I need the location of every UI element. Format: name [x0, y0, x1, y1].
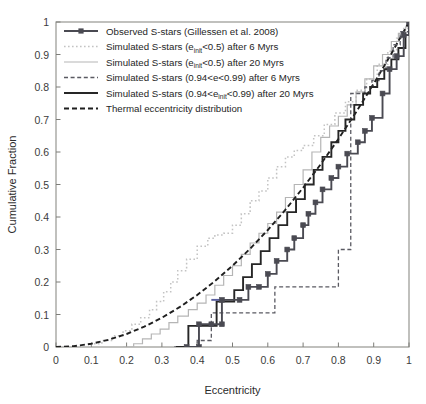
series-marker — [292, 236, 297, 241]
series-marker — [407, 20, 412, 25]
series-marker — [209, 322, 214, 327]
series-marker — [306, 211, 311, 216]
series-marker — [274, 258, 279, 263]
series-marker — [237, 297, 242, 302]
y-tick-label: 0.2 — [34, 276, 49, 288]
x-axis-title: Eccentricity — [204, 384, 261, 396]
x-tick-label: 0.1 — [84, 354, 99, 366]
plot-frame — [56, 22, 409, 347]
x-tick-label: 0 — [53, 354, 59, 366]
series-marker — [329, 176, 334, 181]
y-tick-label: 0.4 — [34, 211, 49, 223]
x-tick-label: 0.8 — [331, 354, 346, 366]
y-axis-title: Cumulative Fraction — [6, 136, 18, 234]
series-marker — [220, 297, 225, 302]
chart-container: 00.10.20.30.40.50.60.70.80.9100.10.20.30… — [0, 0, 426, 404]
x-tick-label: 0.3 — [155, 354, 170, 366]
series-marker — [345, 151, 350, 156]
series-marker — [265, 271, 270, 276]
series-marker — [313, 200, 318, 205]
x-tick-label: 0.9 — [366, 354, 381, 366]
series-marker — [355, 140, 360, 145]
series-marker — [370, 115, 375, 120]
x-tick-label: 1 — [406, 354, 412, 366]
legend-entry-label: Simulated S-stars (0.94<einit<0.99) afte… — [106, 88, 314, 100]
legend-marker-sample — [78, 28, 83, 33]
series-marker — [197, 345, 202, 350]
series-marker — [184, 345, 189, 350]
x-tick-label: 0.7 — [296, 354, 311, 366]
series-marker — [320, 187, 325, 192]
series-marker — [257, 284, 262, 289]
series-marker — [394, 54, 399, 59]
legend-entry-label: Simulated S-stars (einit<0.5) after 6 My… — [106, 41, 279, 53]
legend-entry-label: Simulated S-stars (0.94<e<0.99) after 6 … — [106, 72, 300, 83]
series-marker — [301, 223, 306, 228]
legend-entry-label: Observed S-stars (Gillessen et al. 2008) — [106, 26, 278, 37]
y-tick-label: 0.6 — [34, 146, 49, 158]
series-marker — [387, 67, 392, 72]
y-tick-label: 0.7 — [34, 114, 49, 126]
series-marker — [220, 322, 225, 327]
series-marker — [246, 284, 251, 289]
y-tick-label: 0.9 — [34, 49, 49, 61]
y-tick-label: 0.8 — [34, 81, 49, 93]
x-tick-label: 0.5 — [225, 354, 240, 366]
cumulative-fraction-chart: 00.10.20.30.40.50.60.70.80.9100.10.20.30… — [0, 0, 426, 404]
y-tick-label: 0 — [43, 341, 49, 353]
y-tick-label: 0.3 — [34, 244, 49, 256]
y-tick-label: 0.5 — [34, 179, 49, 191]
series-marker — [380, 91, 385, 96]
x-tick-label: 0.6 — [260, 354, 275, 366]
series-marker — [362, 128, 367, 133]
x-tick-label: 0.2 — [119, 354, 134, 366]
series-marker — [285, 247, 290, 252]
legend-entry-label: Thermal eccentricity distribution — [106, 103, 242, 114]
y-tick-label: 1 — [43, 16, 49, 28]
y-tick-label: 0.1 — [34, 309, 49, 321]
series-marker — [197, 322, 202, 327]
series-marker — [401, 33, 406, 38]
series-marker — [336, 164, 341, 169]
x-tick-label: 0.4 — [190, 354, 205, 366]
